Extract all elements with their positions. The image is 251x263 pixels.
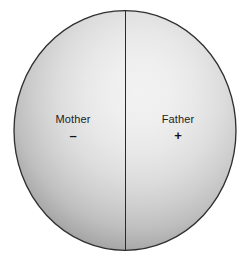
maternal-half-label: Mother	[38, 113, 108, 126]
vertical-division-line	[125, 11, 126, 250]
minus-sign: –	[38, 129, 108, 143]
plus-sign: +	[143, 129, 213, 143]
diagram-canvas: Mother – Father +	[0, 0, 251, 263]
paternal-half-label: Father	[143, 113, 213, 126]
label-group-father: Father +	[143, 113, 213, 143]
label-group-mother: Mother –	[38, 113, 108, 143]
